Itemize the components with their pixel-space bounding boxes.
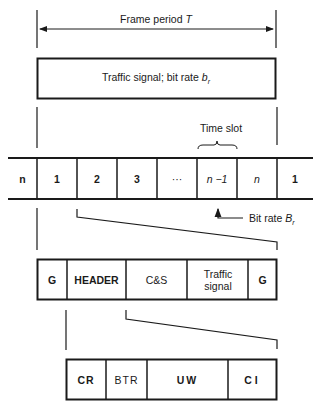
frame-slot-3: 3	[117, 158, 157, 199]
slot-field-cs: C&S	[126, 259, 187, 300]
header-field-ci: CI	[228, 359, 277, 400]
header-field-uw: UW	[147, 359, 228, 400]
time-slot-brace	[198, 141, 237, 149]
slot-expansion-line	[77, 209, 277, 250]
slot-field-guard-start: G	[37, 259, 67, 300]
bit-rate-subscript: r	[292, 219, 294, 226]
frame-slot-n-prev: n	[8, 158, 37, 199]
traffic-signal-text: Traffic signal; bit rate	[102, 71, 202, 83]
frame-slot-1: 1	[37, 158, 77, 199]
header-field-btr: BTR	[106, 359, 147, 400]
time-slot-label: Time slot	[200, 122, 242, 134]
frame-slot-2: 2	[77, 158, 117, 199]
bit-rate-pointer	[218, 209, 243, 218]
slot-field-traffic-signal: Traffic signal	[195, 259, 241, 300]
slot-field-guard-end: G	[248, 259, 277, 300]
frame-period-text: Frame period	[120, 13, 185, 25]
traffic-signal-label: Traffic signal; bit rate br	[102, 71, 210, 85]
frame-period-symbol: T	[185, 13, 191, 25]
frame-slot-n-minus-1: n −1	[197, 158, 237, 199]
frame-period-label: Frame period T	[120, 13, 192, 25]
traffic-bit-rate-subscript: r	[208, 78, 210, 85]
diagram-lines	[0, 0, 313, 408]
frame-slot-ellipsis: ···	[157, 158, 197, 199]
frame-slot-n: n	[237, 158, 277, 199]
header-expansion-line	[126, 310, 277, 349]
header-field-cr: CR	[66, 359, 106, 400]
slot-field-header: HEADER	[67, 259, 126, 300]
bit-rate-label: Bit rate Br	[249, 212, 295, 226]
frame-slot-1-next: 1	[277, 158, 313, 199]
bit-rate-text: Bit rate	[249, 212, 285, 224]
